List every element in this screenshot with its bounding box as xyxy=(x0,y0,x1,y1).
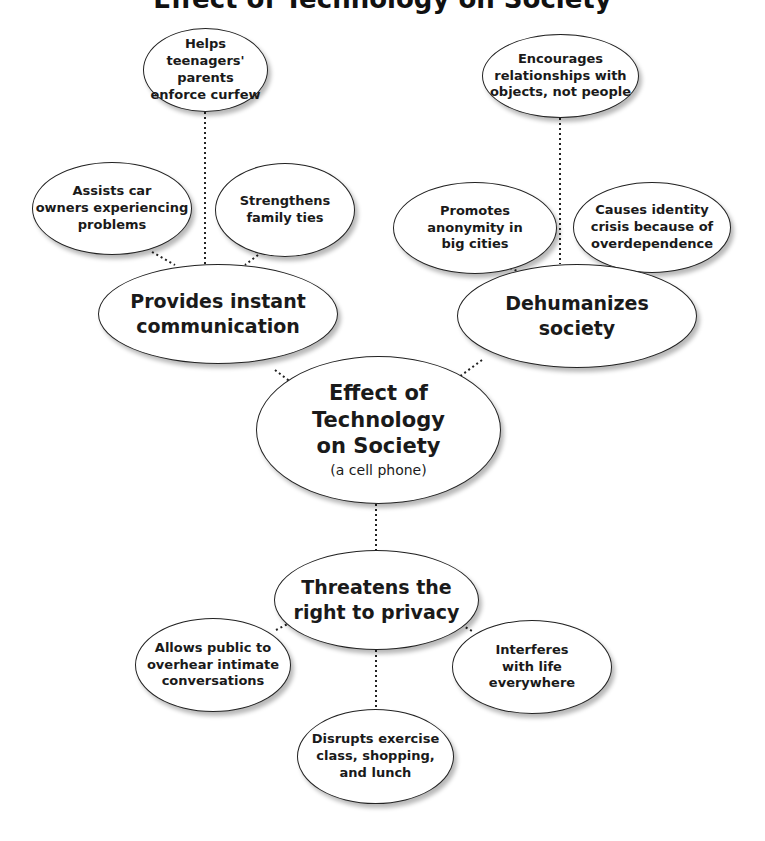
node-dehumanizes-society: Dehumanizes society xyxy=(457,264,697,368)
node-provides-instant-communication: Provides instant communication xyxy=(98,264,338,364)
node-allows-public-overhear: Allows public to overhear intimate conve… xyxy=(135,618,291,712)
node-encourages-relationships: Encourages relationships with objects, n… xyxy=(482,34,639,118)
center-subtitle: (a cell phone) xyxy=(312,462,445,480)
node-strengthens-family-ties: Strengthens family ties xyxy=(215,163,355,257)
node-center-effect-of-technology: Effect of Technology on Society (a cell … xyxy=(256,356,501,504)
node-interferes-with-life: Interferes with life everywhere xyxy=(452,620,612,714)
node-promotes-anonymity: Promotes anonymity in big cities xyxy=(393,182,557,274)
center-title: Effect of Technology on Society xyxy=(312,381,445,459)
node-disrupts-exercise-class: Disrupts exercise class, shopping, and l… xyxy=(297,709,454,804)
node-assists-car-owners: Assists car owners experiencing problems xyxy=(32,162,192,255)
node-causes-identity-crisis: Causes identity crisis because of overde… xyxy=(573,182,731,273)
node-helps-enforce-curfew: Helps teenagers' parents enforce curfew xyxy=(143,28,268,112)
node-threatens-privacy: Threatens the right to privacy xyxy=(274,550,479,650)
